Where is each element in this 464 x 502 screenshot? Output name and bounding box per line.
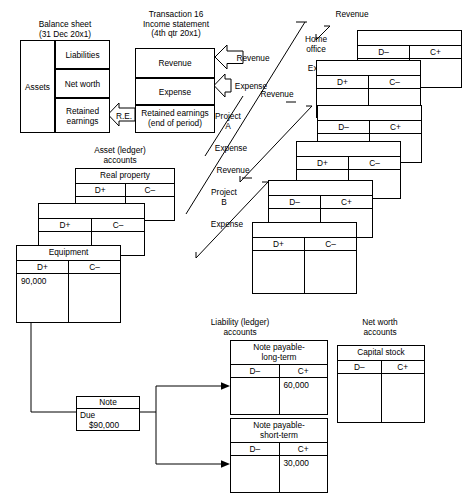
income-statement-expense-cell: Expense bbox=[135, 78, 215, 105]
balance-sheet-retained-earnings-cell: Retained earnings bbox=[55, 98, 110, 133]
liability-card-title: Note payable- short-term bbox=[230, 418, 328, 443]
segment-revenue-label-home-office: Revenue bbox=[328, 10, 376, 20]
asset-card-credit-header: C– bbox=[126, 184, 175, 196]
net-worth-card-body bbox=[337, 374, 425, 423]
segment-card-credit-header: C+ bbox=[321, 196, 372, 208]
liability-card-note-payable-long-term: Note payable- long-term D– C+ 60,000 bbox=[230, 340, 328, 415]
segment-card-body bbox=[252, 251, 357, 294]
segment-revenue-label-project-a: Revenue bbox=[253, 90, 301, 100]
re-arrow-label: R.E. bbox=[112, 111, 136, 121]
note-box-title: Note bbox=[76, 396, 140, 409]
income-statement-retained-earnings-cell: Retained earnings (end of period) bbox=[135, 105, 215, 133]
segment-card-title bbox=[357, 30, 462, 46]
segment-expense-label-project-b: Expense bbox=[203, 220, 251, 230]
asset-card-debit-header: D+ bbox=[76, 184, 126, 196]
liability-card-body: 60,000 bbox=[230, 378, 328, 415]
liability-card-credit-cell: 30,000 bbox=[280, 456, 328, 492]
segment-revenue-label-project-b: Revenue bbox=[209, 166, 257, 176]
asset-card-debit-cell: 90,000 bbox=[17, 274, 69, 322]
segment-card-debit-header: D– bbox=[318, 121, 370, 133]
income-statement-heading: Transaction 16 Income statement (4th qtr… bbox=[130, 10, 222, 39]
segment-card-credit-header: C+ bbox=[370, 121, 421, 133]
segment-card-dc-header: D+ C– bbox=[252, 238, 357, 251]
segment-card-debit-cell bbox=[253, 251, 305, 293]
liability-card-dc-header: D– C+ bbox=[230, 365, 328, 378]
segment-card-dc-header: D+ C– bbox=[296, 157, 401, 170]
liability-card-debit-header: D– bbox=[231, 365, 280, 377]
asset-card-credit-header: C– bbox=[92, 219, 144, 231]
balance-sheet-networth-cell: Net worth bbox=[55, 69, 110, 98]
segment-card-dc-header: D– C+ bbox=[268, 196, 373, 209]
asset-card-dc-header: D+ C– bbox=[75, 184, 175, 197]
liability-card-dc-header: D– C+ bbox=[230, 443, 328, 456]
asset-card-credit-header: C– bbox=[69, 261, 120, 273]
asset-card-body: 90,000 bbox=[16, 274, 121, 323]
asset-card-dc-header: D+ C– bbox=[38, 219, 145, 232]
segment-card-title bbox=[296, 141, 401, 157]
asset-card-debit-header: D+ bbox=[39, 219, 92, 231]
net-worth-card-debit-header: D– bbox=[338, 361, 382, 373]
asset-card-dc-header: D+ C– bbox=[16, 261, 121, 274]
revenue-arrow-label: Revenue bbox=[228, 53, 278, 63]
segment-label-home-office: Home office bbox=[296, 35, 336, 55]
liability-card-credit-header: C+ bbox=[280, 443, 328, 455]
segment-card-debit-header: D+ bbox=[253, 238, 305, 250]
segment-card-title bbox=[268, 180, 373, 196]
segment-card-title bbox=[316, 60, 421, 76]
accounting-flow-diagram: Balance sheet (31 Dec 20x1) Assets Liabi… bbox=[0, 0, 464, 502]
segment-card-dc-header: D– C+ bbox=[357, 46, 462, 59]
net-worth-card-capital-stock: Capital stock D– C+ bbox=[337, 345, 425, 423]
segment-card-dc-header: D– C+ bbox=[317, 121, 422, 134]
liability-card-body: 30,000 bbox=[230, 456, 328, 493]
liability-card-credit-cell: 60,000 bbox=[280, 378, 328, 414]
asset-card-title bbox=[38, 203, 145, 219]
liability-card-note-payable-short-term: Note payable- short-term D– C+ 30,000 bbox=[230, 418, 328, 493]
note-box-body: Due$90,000 bbox=[76, 409, 140, 431]
balance-sheet-liabilities-cell: Liabilities bbox=[55, 40, 110, 69]
net-worth-card-debit-cell bbox=[338, 374, 382, 422]
segment-card-credit-header: C– bbox=[369, 76, 420, 88]
net-worth-card-title: Capital stock bbox=[337, 345, 425, 361]
income-statement-revenue-cell: Revenue bbox=[135, 48, 215, 78]
segment-card-debit-header: D– bbox=[358, 46, 410, 58]
net-worth-accounts-heading: Net worth accounts bbox=[330, 318, 430, 337]
net-worth-card-dc-header: D– C+ bbox=[337, 361, 425, 374]
segment-card-dc-header: D+ C– bbox=[316, 76, 421, 89]
note-box: Note Due$90,000 bbox=[76, 396, 140, 431]
asset-card-title: Equipment bbox=[16, 245, 121, 261]
segment-card-debit-header: D– bbox=[269, 196, 321, 208]
segment-card-debit-header: D+ bbox=[317, 76, 369, 88]
segment-expense-label-project-a: Expense bbox=[207, 144, 255, 154]
segment-card-debit-header: D+ bbox=[297, 157, 349, 169]
asset-card-equipment: Equipment D+ C– 90,000 bbox=[16, 245, 121, 323]
note-box-amount: Due$90,000 bbox=[77, 409, 139, 430]
balance-sheet-assets-cell: Assets bbox=[20, 40, 55, 133]
net-worth-card-credit-header: C+ bbox=[382, 361, 425, 373]
liability-card-title: Note payable- long-term bbox=[230, 340, 328, 365]
segment-label-project-a: Project A bbox=[207, 112, 249, 132]
liability-card-debit-header: D– bbox=[231, 443, 280, 455]
segment-card-credit-header: C– bbox=[305, 238, 356, 250]
segment-label-project-b: Project B bbox=[203, 188, 245, 208]
segment-card-7: D+ C– bbox=[252, 222, 357, 294]
segment-card-title bbox=[252, 222, 357, 238]
asset-card-debit-header: D+ bbox=[17, 261, 69, 273]
segment-card-title bbox=[317, 105, 422, 121]
liability-card-debit-cell bbox=[231, 378, 280, 414]
asset-card-title: Real property bbox=[75, 168, 175, 184]
liability-card-debit-cell bbox=[231, 456, 280, 492]
segment-card-credit-header: C+ bbox=[410, 46, 461, 58]
segment-card-credit-header: C– bbox=[349, 157, 400, 169]
net-worth-card-credit-cell bbox=[382, 374, 425, 422]
asset-accounts-heading: Asset (ledger) accounts bbox=[70, 146, 170, 165]
note-to-liabilities-arrows bbox=[140, 382, 230, 468]
segment-card-credit-cell bbox=[305, 251, 356, 293]
balance-sheet-heading: Balance sheet (31 Dec 20x1) bbox=[20, 20, 110, 39]
liability-card-credit-header: C+ bbox=[280, 365, 328, 377]
asset-card-credit-cell bbox=[69, 274, 120, 322]
liability-accounts-heading: Liability (ledger) accounts bbox=[180, 318, 300, 337]
